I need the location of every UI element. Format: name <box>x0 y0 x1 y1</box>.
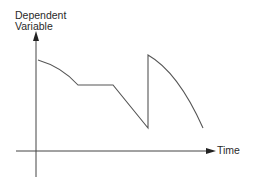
diagram-canvas: Dependent Variable Time <box>0 0 257 183</box>
y-axis-arrowhead-icon <box>33 31 39 41</box>
x-axis-arrowhead-icon <box>206 148 216 154</box>
dependent-variable-curve <box>38 55 203 128</box>
x-axis-label: Time <box>217 144 240 156</box>
